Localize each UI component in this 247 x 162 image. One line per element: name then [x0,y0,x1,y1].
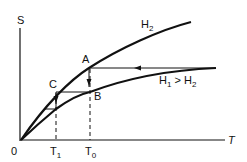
tick-t0-label: T0 [85,145,97,160]
curve-h2-label: H2 [141,18,154,33]
down-arrow-icon [87,79,92,86]
point-b-label: B [94,90,101,102]
entropy-temperature-diagram: S T 0 A B C H2 H1 > H2 T1 T0 [0,0,247,162]
s-axis-label: S [17,14,24,26]
point-c-label: C [49,78,57,90]
left-arrow-icon [134,66,141,71]
origin-label: 0 [11,145,17,157]
curve-h1-label: H1 > H2 [159,74,197,89]
t-axis-label: T [228,134,236,146]
point-a-label: A [82,53,90,65]
tick-t1-label: T1 [50,145,62,160]
